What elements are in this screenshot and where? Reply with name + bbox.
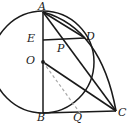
geometry-canvas <box>0 0 133 135</box>
point-label-a: A <box>38 1 46 12</box>
geometry-figure: A E P D O B Q C <box>0 0 133 135</box>
point-label-o: O <box>26 55 35 66</box>
center-dot-o <box>41 60 45 64</box>
point-label-e: E <box>27 33 35 44</box>
point-label-d: D <box>86 31 95 42</box>
point-label-c: C <box>118 107 126 118</box>
point-label-p: P <box>57 43 64 54</box>
segment-oq-dashed <box>43 62 80 113</box>
point-label-q: Q <box>73 112 82 123</box>
segment-oc <box>43 62 116 111</box>
point-label-b: B <box>37 112 45 123</box>
